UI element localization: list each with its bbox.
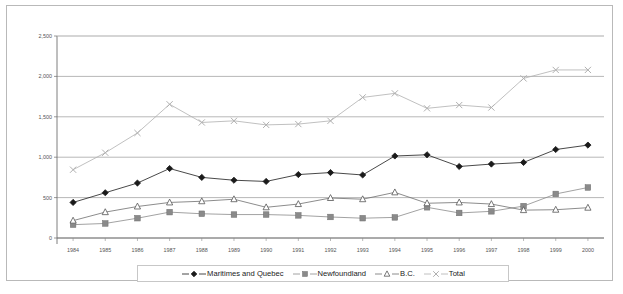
y-axis-tick-label: 500 [43, 195, 52, 201]
x-axis-tick-label: 1994 [389, 247, 401, 253]
x-axis-tick-label: 1984 [67, 247, 79, 253]
legend-item-label: B.C. [400, 269, 415, 278]
chart-legend: Maritimes and QuebecNewfoundlandB.C.Tota… [137, 265, 509, 282]
series-newfoundland [70, 185, 590, 228]
data-point-marker-x [70, 167, 76, 173]
legend-item-label: Newfoundland [318, 269, 367, 278]
data-point-marker-diamond [520, 159, 526, 165]
data-point-marker-triangle [456, 199, 462, 205]
y-axis-tick-labels: 05001,0001,5002,0002,500 [39, 33, 58, 241]
data-point-marker-diamond [360, 172, 366, 178]
y-axis-tick-label: 2,500 [39, 33, 53, 39]
data-point-marker-triangle [231, 196, 237, 202]
line-chart-plot: 05001,0001,5002,0002,500 198419851986198… [7, 6, 612, 280]
legend-swatch-x-icon [423, 269, 449, 279]
data-point-marker-square [296, 213, 302, 219]
data-point-marker-triangle [392, 189, 398, 195]
data-point-marker-diamond [295, 171, 301, 177]
legend-item-label: Maritimes and Quebec [207, 269, 283, 278]
data-point-marker-square [553, 191, 559, 197]
data-point-marker-square [585, 185, 591, 191]
x-axis-tick-label: 1995 [421, 247, 433, 253]
x-axis-tick-label: 1990 [260, 247, 272, 253]
legend-item-maritimes-and-quebec[interactable]: Maritimes and Quebec [181, 269, 283, 279]
legend-item-b-c[interactable]: B.C. [374, 269, 415, 279]
data-point-marker-diamond [134, 180, 140, 186]
data-point-marker-square [231, 212, 237, 218]
x-axis-tick-label: 1988 [196, 247, 208, 253]
data-point-marker-diamond [585, 142, 591, 148]
data-point-marker-x [134, 130, 140, 136]
data-point-marker-square [199, 211, 205, 217]
data-point-marker-diamond [488, 161, 494, 167]
data-point-marker-square [135, 215, 141, 221]
data-series-group [70, 67, 591, 228]
legend-item-label: Total [449, 269, 465, 278]
y-axis-tick-label: 1,000 [39, 154, 53, 160]
y-axis-tick-label: 0 [49, 235, 52, 241]
x-axis-tick-label: 1997 [485, 247, 497, 253]
legend-swatch-triangle-icon [374, 269, 400, 279]
data-point-marker-square [102, 221, 108, 227]
legend-item-newfoundland[interactable]: Newfoundland [292, 269, 367, 279]
data-point-marker-square [456, 210, 462, 216]
y-axis-tick-label: 2,000 [39, 73, 53, 79]
data-point-marker-square [302, 271, 307, 276]
data-point-marker-diamond [191, 271, 197, 277]
y-axis-tick-label: 1,500 [39, 114, 53, 120]
x-axis-tick-label: 1999 [550, 247, 562, 253]
data-point-marker-diamond [199, 174, 205, 180]
x-axis-tick-label: 1992 [325, 247, 337, 253]
data-point-marker-square [263, 212, 269, 218]
x-axis-tick-label: 1986 [131, 247, 143, 253]
data-point-marker-diamond [456, 163, 462, 169]
x-axis-tick-labels: 1984198519861987198819891990199119921993… [67, 238, 594, 253]
x-axis-tick-label: 1996 [453, 247, 465, 253]
legend-swatch-diamond-icon [181, 269, 207, 279]
data-point-marker-square [167, 209, 173, 215]
data-point-marker-diamond [327, 169, 333, 175]
x-axis-tick-label: 1993 [357, 247, 369, 253]
x-axis-tick-label: 1987 [164, 247, 176, 253]
data-point-marker-x [102, 150, 108, 156]
data-point-marker-diamond [102, 190, 108, 196]
x-axis-tick-label: 1991 [292, 247, 304, 253]
legend-swatch-square-icon [292, 269, 318, 279]
data-point-marker-triangle [384, 270, 390, 275]
data-point-marker-square [328, 214, 334, 220]
chart-frame: 05001,0001,5002,0002,500 198419851986198… [6, 5, 613, 281]
data-point-marker-triangle [585, 204, 591, 210]
data-point-marker-diamond [167, 165, 173, 171]
x-axis-tick-label: 1989 [228, 247, 240, 253]
data-point-marker-diamond [263, 178, 269, 184]
series-line [73, 70, 588, 170]
x-axis-tick-label: 1998 [518, 247, 530, 253]
legend-item-total[interactable]: Total [423, 269, 465, 279]
data-point-marker-diamond [231, 177, 237, 183]
data-point-marker-diamond [70, 199, 76, 205]
data-point-marker-x [433, 271, 439, 277]
data-point-marker-square [360, 215, 366, 221]
data-point-marker-diamond [392, 153, 398, 159]
x-axis-tick-label: 1985 [99, 247, 111, 253]
data-point-marker-x [167, 101, 173, 107]
x-axis-tick-label: 2000 [582, 247, 594, 253]
data-point-marker-diamond [553, 146, 559, 152]
data-point-marker-square [489, 209, 495, 215]
data-point-marker-square [392, 215, 398, 221]
